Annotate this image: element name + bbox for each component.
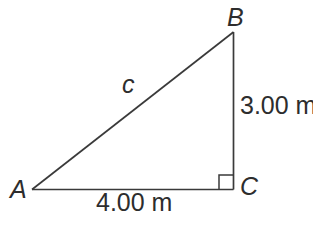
vertex-label-c: C [240,174,258,199]
vertex-label-b: B [227,5,244,30]
right-triangle-figure: A B C c 3.00 m 4.00 m [0,0,313,226]
vertex-label-a: A [10,177,27,202]
triangle-side-hypotenuse [32,32,234,190]
vertical-leg-measurement: 3.00 m [240,93,313,118]
horizontal-leg-measurement: 4.00 m [96,190,172,215]
hypotenuse-label: c [122,72,135,97]
right-angle-marker [219,175,234,190]
